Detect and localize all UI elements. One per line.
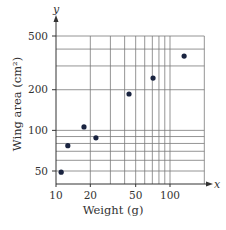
x-tick-label: 10 (49, 189, 62, 201)
data-points (59, 53, 187, 174)
tick-labels: 50100200500102050100 (28, 30, 180, 202)
x-axis-arrow-icon (206, 182, 213, 187)
axes (52, 15, 213, 187)
x-axis-variable: x (214, 178, 221, 191)
x-tick-label: 20 (84, 189, 97, 201)
data-point (59, 170, 64, 175)
y-tick-label: 200 (28, 83, 48, 95)
data-point (81, 124, 86, 129)
y-tick-label: 50 (35, 165, 48, 177)
y-tick-label: 100 (28, 124, 48, 136)
x-axis-label: Weight (g) (83, 203, 144, 217)
y-axis-label: Wing area (cm²) (10, 57, 24, 151)
grid-lines (56, 36, 204, 184)
scatter-chart: 50100200500102050100 Weight (g) Wing are… (0, 0, 226, 230)
data-point (65, 143, 70, 148)
x-tick-label: 100 (160, 189, 180, 201)
data-point (126, 91, 131, 96)
data-point (150, 75, 155, 80)
data-point (93, 135, 98, 140)
y-tick-label: 500 (28, 30, 48, 42)
y-axis-arrow-icon (54, 15, 59, 22)
x-tick-label: 50 (129, 189, 142, 201)
y-axis-variable: y (52, 3, 60, 16)
data-point (182, 53, 187, 58)
